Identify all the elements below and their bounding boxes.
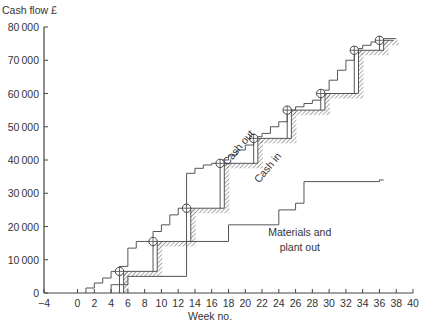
x-tick-label: 26 — [290, 297, 302, 309]
x-tick-label: 2 — [91, 297, 97, 309]
x-tick-label: 6 — [125, 297, 131, 309]
x-axis-title: Week no. — [188, 310, 232, 322]
x-tick-label: 36 — [374, 297, 386, 309]
x-tick-label: 24 — [273, 297, 285, 309]
annotation-label: Cash out — [220, 127, 256, 167]
valuation-point-marker — [375, 36, 383, 44]
marker-layer — [115, 36, 383, 275]
annotation-label: plant out — [280, 241, 320, 253]
x-tick-label: 22 — [256, 297, 268, 309]
y-axis-title: Cash flow £ — [2, 4, 57, 16]
x-tick-label: 30 — [323, 297, 335, 309]
y-tick-label: 30 000 — [8, 187, 39, 199]
y-tick-label: 10 000 — [8, 254, 39, 266]
y-tick-label: 50 000 — [8, 121, 39, 133]
y-tick-label: 70 000 — [8, 54, 39, 66]
x-tick-label: 12 — [172, 297, 184, 309]
y-tick-label: 20 000 — [8, 221, 39, 233]
y-tick-label: 40 000 — [8, 154, 39, 166]
valuation-point-marker — [115, 267, 123, 275]
x-tick-label: 4 — [108, 297, 114, 309]
x-tick-label: 8 — [142, 297, 148, 309]
cash-flow-chart: 010 00020 00030 00040 00050 00060 00070 … — [0, 0, 424, 327]
x-tick-label: 32 — [340, 297, 352, 309]
x-tick-label: 40 — [407, 297, 419, 309]
valuation-point-marker — [283, 106, 291, 114]
x-tick-label: 0 — [75, 297, 81, 309]
annotations: Cash outCash inMaterials andplant out — [220, 127, 332, 253]
x-tick-label: 14 — [189, 297, 201, 309]
x-tick-label: 20 — [239, 297, 251, 309]
y-tick-label: 60 000 — [8, 88, 39, 100]
valuation-point-marker — [317, 89, 325, 97]
x-tick-label: 16 — [206, 297, 218, 309]
x-tick-label: 28 — [307, 297, 319, 309]
x-tick-label: 38 — [390, 297, 402, 309]
annotation-label: Materials and — [268, 226, 331, 238]
y-tick-label: 80 000 — [8, 21, 39, 33]
valuation-point-marker — [149, 237, 157, 245]
x-tick-label: 34 — [357, 297, 369, 309]
valuation-point-marker — [350, 46, 358, 54]
materials-plant-out-line — [111, 180, 384, 293]
valuation-point-marker — [182, 204, 190, 212]
x-tick-label: −4 — [38, 297, 50, 309]
axes: 010 00020 00030 00040 00050 00060 00070 … — [8, 21, 419, 309]
x-tick-label: 10 — [156, 297, 168, 309]
x-tick-label: 18 — [223, 297, 235, 309]
